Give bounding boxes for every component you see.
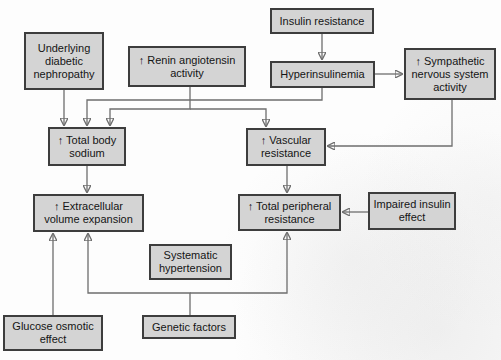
node-label: Impaired insulin effect (373, 198, 450, 224)
node-impaired-insulin-effect: Impaired insulin effect (368, 192, 456, 230)
node-total-peripheral-resistance: ↑ Total peripheral resistance (238, 194, 341, 231)
node-label: ↑ Total body sodium (58, 134, 117, 160)
node-label: Insulin resistance (280, 15, 365, 28)
node-label: ↑ Vascular resistance (261, 134, 312, 160)
node-label: ↑ Extracellular volume expansion (44, 200, 133, 226)
node-label: Underlying diabetic nephropathy (33, 42, 94, 81)
node-insulin-resistance: Insulin resistance (270, 8, 374, 34)
node-underlying-diabetic-nephropathy: Underlying diabetic nephropathy (24, 32, 104, 90)
node-vascular-resistance: ↑ Vascular resistance (246, 128, 326, 166)
arrow-renin-to-vascular (190, 109, 266, 126)
node-systematic-hypertension: Systematic hypertension (149, 244, 232, 280)
flowchart-canvas: Underlying diabetic nephropathy ↑ Renin … (0, 0, 501, 360)
node-label: ↑ Total peripheral resistance (248, 200, 332, 226)
node-label: Systematic hypertension (159, 249, 222, 275)
node-label: ↑ Renin angiotensin activity (139, 54, 236, 80)
node-hyperinsulinemia: Hyperinsulinemia (270, 61, 375, 88)
node-extracellular-volume-expansion: ↑ Extracellular volume expansion (33, 194, 144, 232)
arrow-sympathetic-to-vascular (328, 100, 452, 146)
node-genetic-factors: Genetic factors (142, 315, 236, 339)
arrow-hyperinsulinemia-to-sodium (87, 88, 322, 125)
node-glucose-osmotic-effect: Glucose osmotic effect (3, 315, 103, 351)
node-label: Glucose osmotic effect (12, 320, 93, 346)
node-total-body-sodium: ↑ Total body sodium (48, 127, 126, 166)
node-label: Genetic factors (152, 321, 226, 334)
node-label: Hyperinsulinemia (280, 68, 364, 81)
node-label: ↑ Sympathetic nervous system activity (411, 55, 488, 94)
arrow-renin-to-sodium (110, 87, 190, 125)
node-sympathetic-nervous-system-activity: ↑ Sympathetic nervous system activity (404, 48, 496, 100)
node-renin-angiotensin-activity: ↑ Renin angiotensin activity (128, 46, 246, 87)
